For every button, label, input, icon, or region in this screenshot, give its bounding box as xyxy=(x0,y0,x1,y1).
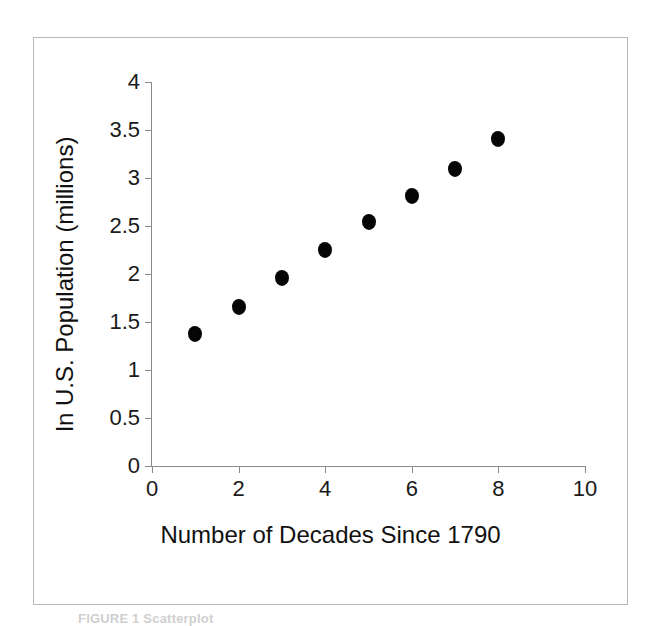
y-tick-label: 3.5 xyxy=(109,119,140,141)
x-tick-mark xyxy=(239,466,240,473)
x-tick-label: 8 xyxy=(468,478,528,500)
x-tick-mark xyxy=(412,466,413,473)
x-axis-tick-labels: 0246810 xyxy=(0,478,653,508)
x-tick-label: 0 xyxy=(122,478,182,500)
y-tick-label: 2 xyxy=(128,263,140,285)
plot-area xyxy=(186,120,619,504)
x-tick-mark xyxy=(152,466,153,473)
figure-caption: FIGURE 1 Scatterplot xyxy=(78,612,498,626)
data-point xyxy=(275,270,289,286)
y-tick-mark xyxy=(145,322,152,323)
y-tick-mark xyxy=(145,370,152,371)
y-tick-label: 4 xyxy=(128,71,140,93)
y-tick-mark xyxy=(145,82,152,83)
y-axis-title: ln U.S. Population (millions) xyxy=(51,89,79,479)
x-tick-mark xyxy=(585,466,586,473)
x-axis-title: Number of Decades Since 1790 xyxy=(33,520,628,550)
y-tick-label: 2.5 xyxy=(109,215,140,237)
y-tick-mark xyxy=(145,226,152,227)
data-point xyxy=(232,299,246,315)
x-tick-label: 10 xyxy=(555,478,615,500)
x-tick-label: 6 xyxy=(382,478,442,500)
y-tick-label: 0 xyxy=(128,455,140,477)
y-tick-label: 1.5 xyxy=(109,311,140,333)
data-point xyxy=(362,214,376,230)
y-tick-mark xyxy=(145,130,152,131)
x-tick-mark xyxy=(325,466,326,473)
y-tick-label: 3 xyxy=(128,167,140,189)
y-tick-label: 0.5 xyxy=(109,407,140,429)
y-tick-mark xyxy=(145,418,152,419)
x-tick-label: 2 xyxy=(209,478,269,500)
y-tick-label: 1 xyxy=(128,359,140,381)
x-tick-mark xyxy=(498,466,499,473)
y-tick-mark xyxy=(145,178,152,179)
x-tick-label: 4 xyxy=(295,478,355,500)
y-tick-mark xyxy=(145,466,152,467)
y-tick-mark xyxy=(145,274,152,275)
x-axis-line xyxy=(152,466,586,467)
data-point xyxy=(405,188,419,204)
